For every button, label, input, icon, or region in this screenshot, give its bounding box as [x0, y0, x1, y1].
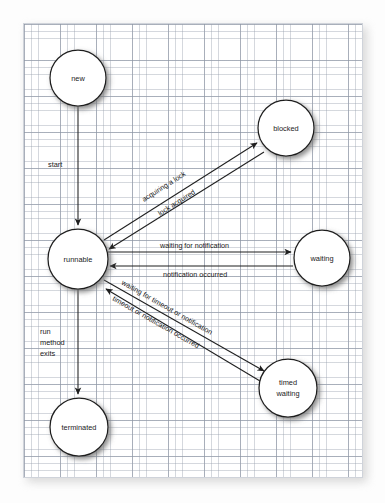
- edge-start: start: [48, 107, 78, 225]
- state-label-terminated: terminated: [62, 423, 97, 432]
- edge-method-label: method: [40, 338, 65, 347]
- edge-lock-acquired: lock acquired: [109, 152, 264, 249]
- edge-timeout-occurred: timeout or notification occurred: [106, 289, 265, 384]
- state-diagram: start acquiring a lock lock acquired wai…: [0, 0, 385, 503]
- edge-run-method-exits: run method exits: [40, 290, 78, 394]
- edge-acquiring-a-lock-line: [104, 143, 257, 240]
- state-label-timed: timed: [279, 378, 297, 387]
- diagram-scene: start acquiring a lock lock acquired wai…: [0, 0, 385, 503]
- edge-waiting-for-notification: waiting for notification: [108, 241, 291, 252]
- edge-start-label: start: [48, 160, 62, 169]
- edge-waiting-for-notification-label: waiting for notification: [159, 241, 229, 250]
- state-label-waiting: waiting: [309, 254, 333, 263]
- state-label-runnable: runnable: [64, 255, 93, 264]
- state-node-timed-waiting[interactable]: timed waiting: [259, 359, 317, 417]
- state-label-timed-waiting-2: waiting: [275, 389, 299, 398]
- state-node-terminated[interactable]: terminated: [50, 398, 108, 456]
- edge-waiting-for-timeout: waiting for timeout or notification: [104, 277, 264, 371]
- state-node-new[interactable]: new: [50, 50, 106, 106]
- state-node-blocked[interactable]: blocked: [258, 100, 314, 156]
- edge-run-label: run: [40, 327, 51, 336]
- edge-notification-occurred: notification occurred: [110, 266, 293, 279]
- state-label-blocked: blocked: [273, 124, 298, 133]
- edge-waiting-for-timeout-line: [104, 280, 264, 371]
- state-node-runnable[interactable]: runnable: [48, 229, 108, 289]
- edge-exits-label: exits: [40, 349, 56, 358]
- edge-notification-occurred-label: notification occurred: [163, 270, 227, 279]
- edge-acquiring-a-lock: acquiring a lock: [104, 143, 257, 240]
- state-node-waiting[interactable]: waiting: [294, 230, 350, 286]
- state-label-new: new: [71, 74, 85, 83]
